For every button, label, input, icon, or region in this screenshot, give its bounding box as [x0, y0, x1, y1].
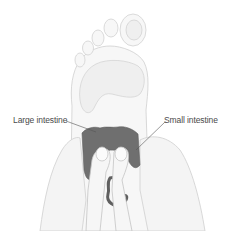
- label-small-intestine: Small intestine: [164, 115, 218, 125]
- label-large-intestine: Large intestine: [13, 115, 67, 125]
- reflexology-diagram: Large intestine Small intestine: [0, 0, 227, 231]
- left-hand: [40, 138, 86, 232]
- right-hand: [140, 137, 205, 231]
